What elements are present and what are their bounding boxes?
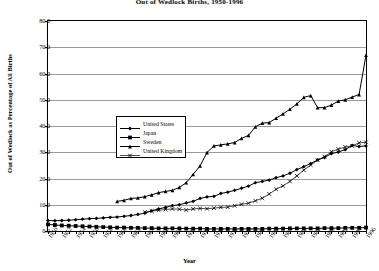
y-tick-label: 20.0: [10, 175, 50, 182]
legend-item-sweden[interactable]: Sweden: [119, 137, 182, 146]
legend-marker-icon: [119, 128, 141, 137]
legend-label: United States: [141, 121, 174, 127]
x-axis-title: Year: [0, 257, 379, 264]
y-tick-label: 70.0: [10, 43, 50, 50]
chart-container: Out of Wedlock Births, 1950-1996 Out of …: [0, 0, 379, 271]
y-tick-label: 80.0: [10, 17, 50, 24]
legend-label: Sweden: [141, 139, 161, 145]
series-layer: [48, 21, 366, 231]
legend-marker-icon: [119, 119, 141, 128]
legend-item-united-states[interactable]: United States: [119, 119, 182, 128]
legend-marker-icon: [119, 146, 141, 155]
y-axis-title: Out of Wedlock as Percentage of All Birt…: [6, 9, 13, 219]
y-tick-label: 60.0: [10, 70, 50, 77]
series-united-states: [46, 144, 368, 223]
y-tick-label: 10.0: [10, 201, 50, 208]
y-tick-label: 0.0: [10, 227, 50, 234]
y-tick-label: 40.0: [10, 122, 50, 129]
legend-marker-icon: [119, 137, 141, 146]
legend-item-united-kingdom[interactable]: United Kingdom: [119, 146, 182, 155]
legend-label: Japan: [141, 130, 156, 136]
legend: United StatesJapanSwedenUnited Kingdom: [116, 116, 186, 158]
chart-title: Out of Wedlock Births, 1950-1996: [0, 0, 379, 7]
y-tick-label: 50.0: [10, 96, 50, 103]
legend-label: United Kingdom: [141, 148, 182, 154]
series-japan: [46, 223, 368, 231]
legend-item-japan[interactable]: Japan: [119, 128, 182, 137]
y-tick-label: 30.0: [10, 148, 50, 155]
plot-area: 0.010.020.030.040.050.060.070.080.0 1950…: [47, 20, 367, 232]
